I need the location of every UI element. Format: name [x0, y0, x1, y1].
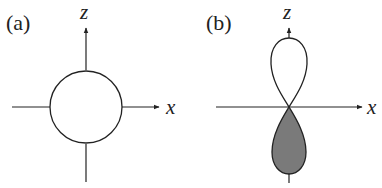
s-orbital-circle: [50, 71, 122, 143]
x-axis-label: x: [165, 95, 176, 119]
panel-a-label: (a): [6, 10, 30, 35]
upper-lobe: [271, 38, 307, 107]
x-axis-label: x: [366, 95, 377, 119]
panel-b: (b) z x: [206, 0, 377, 183]
lower-lobe-shaded: [272, 107, 306, 174]
orbital-diagram: (a) z x (b) z x: [0, 0, 382, 188]
panel-a: (a) z x: [6, 0, 176, 182]
z-axis-label: z: [79, 0, 88, 24]
panel-b-label: (b): [206, 10, 232, 35]
z-axis-label: z: [282, 0, 291, 24]
